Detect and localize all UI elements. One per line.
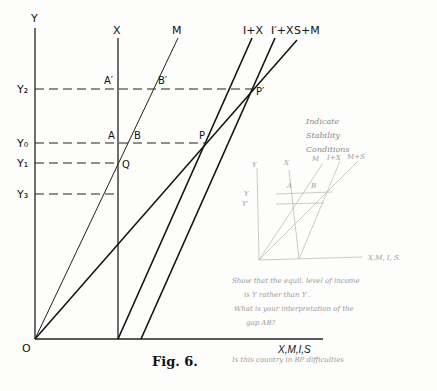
stability-note-line-3: Conditions: [306, 145, 350, 154]
sketch-x-axis: X,M, I, S.: [367, 254, 401, 262]
point-a-prime: A′: [104, 75, 114, 86]
m-line-label: M: [172, 24, 182, 37]
y2-label: Y₂: [16, 83, 28, 96]
i-plus-x-line: [118, 38, 252, 339]
sketch-point-b: B: [310, 182, 316, 190]
point-p-prime: P′: [256, 86, 265, 97]
sketch-level-y: Y: [244, 190, 250, 198]
i-plus-x-label: I+X: [243, 24, 263, 37]
question-1-line-3: What is your interpretation of the: [234, 305, 354, 313]
point-q: Q: [122, 159, 130, 170]
stability-note-line-1: Indicate: [305, 117, 339, 126]
stability-note-line-2: Stability: [306, 131, 340, 140]
diagram-canvas: Y X M I+X I′+X S+M Y₂ Y₀ Y₁ Y₃ O A′ B′ A…: [0, 0, 437, 391]
sketch-x-line: X: [283, 159, 290, 167]
pencil-sketch: [257, 161, 362, 260]
question-1-line-2: is Y rather than Y′.: [244, 291, 310, 299]
sketch-ms-line: M+S: [346, 153, 365, 161]
y-axis-label: Y: [30, 12, 38, 25]
i-prime-plus-x-label: I′+X: [271, 24, 294, 37]
question-1-line-1: Show that the equil. level of income: [232, 277, 360, 285]
question-2: Is this country in BP difficulties: [231, 356, 344, 364]
question-1-line-4: gap AB?: [246, 319, 276, 327]
sketch-ix-line: I+X: [326, 154, 342, 162]
figure-caption: Fig. 6.: [152, 354, 198, 369]
x-axis-label: X,M,I,S: [277, 344, 311, 355]
sketch-level-y-prime: Y′: [242, 200, 249, 208]
point-b-prime: B′: [158, 75, 168, 86]
y1-label: Y₁: [16, 157, 28, 170]
sketch-y-axis: Y: [252, 161, 258, 169]
point-b: B: [134, 130, 141, 141]
sketch-m-line: M: [311, 155, 320, 163]
y3-label: Y₃: [16, 188, 28, 201]
point-a: A: [108, 130, 115, 141]
handwritten-annotations: Indicate Stability Conditions Y X M I+X …: [231, 117, 401, 364]
s-plus-m-label: S+M: [294, 24, 320, 37]
y0-label: Y₀: [16, 137, 29, 150]
sketch-point-a: A: [286, 182, 292, 190]
origin-label: O: [22, 342, 31, 355]
x-line-label: X: [113, 24, 121, 37]
point-p: P: [199, 130, 205, 141]
